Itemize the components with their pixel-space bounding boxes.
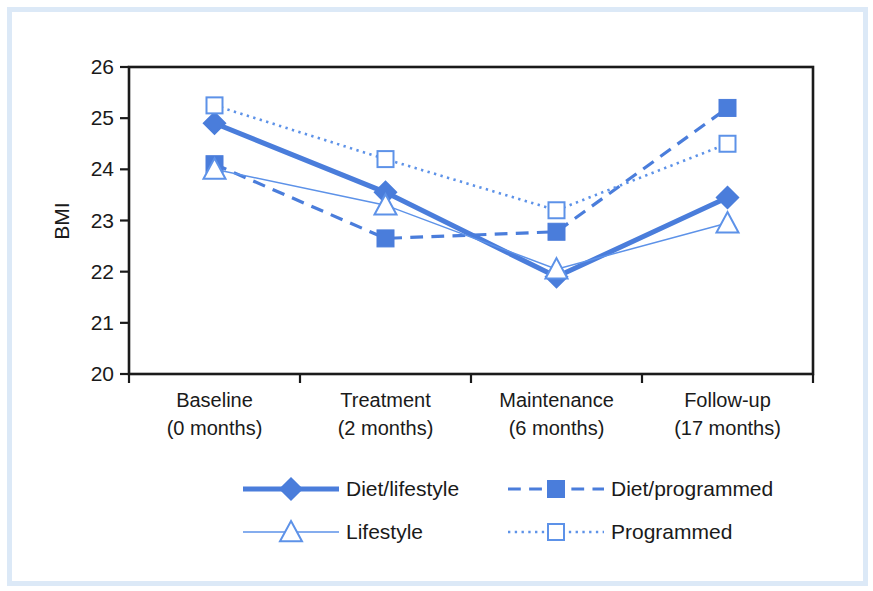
y-tick-label: 25 bbox=[91, 106, 114, 129]
x-category-months: (6 months) bbox=[509, 417, 605, 439]
legend-item-lifestyle[interactable]: Lifestyle bbox=[243, 520, 423, 543]
y-tick-label: 20 bbox=[91, 362, 114, 385]
marker-open-triangle bbox=[280, 521, 302, 541]
y-tick-label: 21 bbox=[91, 311, 114, 334]
x-category-label: Maintenance(6 months) bbox=[499, 389, 614, 439]
marker-filled-square bbox=[548, 481, 565, 498]
bmi-line-chart: 20212223242526 Baseline(0 months)Treatme… bbox=[1, 1, 873, 591]
y-tick-label: 23 bbox=[91, 209, 114, 232]
y-tick-label: 24 bbox=[91, 157, 115, 180]
y-tick-label: 22 bbox=[91, 260, 114, 283]
marker-open-square bbox=[378, 151, 394, 167]
marker-open-square bbox=[720, 136, 736, 152]
figure-frame: 20212223242526 Baseline(0 months)Treatme… bbox=[0, 0, 873, 591]
plot-background bbox=[129, 67, 813, 374]
x-category-months: (2 months) bbox=[338, 417, 434, 439]
y-tick-label: 26 bbox=[91, 55, 114, 78]
legend-item-programmed[interactable]: Programmed bbox=[508, 520, 732, 543]
marker-filled-square bbox=[548, 223, 565, 240]
y-axis: 20212223242526 bbox=[91, 55, 129, 385]
x-category-name: Maintenance bbox=[499, 389, 614, 411]
x-category-label: Baseline(0 months) bbox=[167, 389, 263, 439]
x-category-label: Treatment(2 months) bbox=[338, 389, 434, 439]
marker-open-square bbox=[548, 524, 564, 540]
marker-open-square bbox=[207, 97, 223, 113]
legend-label: Diet/lifestyle bbox=[346, 477, 459, 500]
y-axis-title: BMI bbox=[50, 202, 73, 239]
x-category-name: Treatment bbox=[340, 389, 431, 411]
legend-item-diet-lifestyle[interactable]: Diet/lifestyle bbox=[243, 477, 459, 500]
legend-label: Programmed bbox=[611, 520, 732, 543]
x-category-label: Follow-up(17 months) bbox=[674, 389, 781, 439]
marker-open-square bbox=[549, 202, 565, 218]
marker-filled-diamond bbox=[280, 478, 302, 500]
legend-label: Lifestyle bbox=[346, 520, 423, 543]
x-category-name: Follow-up bbox=[684, 389, 771, 411]
x-category-months: (0 months) bbox=[167, 417, 263, 439]
legend-item-diet-programmed[interactable]: Diet/programmed bbox=[508, 477, 773, 500]
x-category-months: (17 months) bbox=[674, 417, 781, 439]
x-axis: Baseline(0 months)Treatment(2 months)Mai… bbox=[129, 374, 813, 439]
legend-label: Diet/programmed bbox=[611, 477, 773, 500]
marker-filled-square bbox=[719, 99, 736, 116]
x-category-name: Baseline bbox=[176, 389, 253, 411]
chart-legend: Diet/lifestyleDiet/programmedLifestylePr… bbox=[243, 477, 773, 543]
marker-filled-square bbox=[377, 230, 394, 247]
